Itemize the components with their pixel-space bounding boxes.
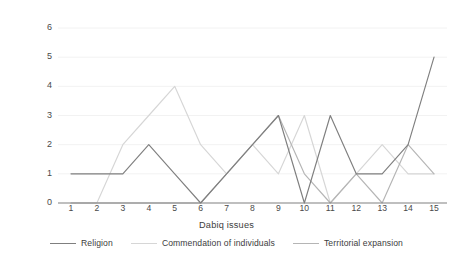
y-axis-tick-label: 3	[30, 110, 52, 120]
x-axis-tick-label: 9	[266, 203, 290, 213]
x-axis-tick-label: 12	[344, 203, 368, 213]
series-layer	[71, 57, 434, 203]
legend-label-territorial-expansion: Territorial expansion	[324, 238, 403, 248]
x-axis-tick-label: 8	[241, 203, 265, 213]
series-line-territorial-expansion	[71, 116, 434, 204]
x-axis-tick-label: 5	[163, 203, 187, 213]
y-axis-tick-label: 5	[30, 51, 52, 61]
legend-item-commendation-of-individuals: Commendation of individuals	[131, 238, 275, 248]
legend-swatch-commendation-of-individuals	[131, 243, 157, 244]
chart-legend: Religion Commendation of individuals Ter…	[0, 238, 453, 248]
x-axis-tick-label: 10	[292, 203, 316, 213]
legend-item-religion: Religion	[50, 238, 113, 248]
legend-label-religion: Religion	[81, 238, 113, 248]
x-axis-tick-label: 7	[215, 203, 239, 213]
y-axis-tick-label: 1	[30, 168, 52, 178]
x-axis-tick-label: 2	[85, 203, 109, 213]
x-axis-tick-label: 6	[189, 203, 213, 213]
y-axis-tick-label: 2	[30, 139, 52, 149]
legend-swatch-religion	[50, 243, 76, 244]
legend-item-territorial-expansion: Territorial expansion	[293, 238, 403, 248]
x-axis-title: Dabiq issues	[0, 220, 453, 230]
x-axis-tick-label: 15	[422, 203, 446, 213]
x-axis-tick-label: 14	[396, 203, 420, 213]
y-axis-tick-label: 4	[30, 80, 52, 90]
legend-label-commendation-of-individuals: Commendation of individuals	[162, 238, 275, 248]
x-axis-tick-label: 4	[137, 203, 161, 213]
legend-swatch-territorial-expansion	[293, 243, 319, 244]
y-axis-tick-label: 0	[30, 197, 52, 207]
series-line-religion	[71, 57, 434, 203]
y-axis-tick-label: 6	[30, 22, 52, 32]
x-axis-tick-label: 13	[370, 203, 394, 213]
x-axis-tick-label: 3	[111, 203, 135, 213]
x-axis-tick-label: 1	[59, 203, 83, 213]
line-chart: Number of articles per issue Dabiq issue…	[0, 0, 453, 266]
x-axis-tick-label: 11	[318, 203, 342, 213]
